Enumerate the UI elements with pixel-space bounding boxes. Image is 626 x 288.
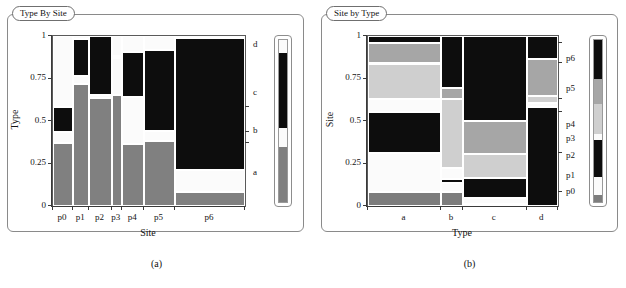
plot-title-a[interactable]: Type By Site [12, 6, 75, 21]
mosaic-tile-a-p6[interactable] [368, 36, 441, 43]
mosaic-column-d[interactable] [527, 36, 558, 206]
mosaic-column-p3[interactable] [112, 36, 123, 206]
right-axis-label: p3 [566, 133, 575, 143]
mosaic-tile-p1-d[interactable] [73, 36, 89, 39]
mosaic-tile-c-p1[interactable] [463, 198, 527, 204]
legend-swatch-p2[interactable] [594, 140, 602, 177]
right-axis-label: p4 [566, 119, 575, 129]
mosaic-tile-a-p4[interactable] [368, 64, 441, 99]
mosaic-tile-p0-b[interactable] [53, 132, 73, 143]
right-axis-tick [558, 98, 562, 99]
legend-swatch-p5[interactable] [594, 79, 602, 104]
mosaic-tile-p3-c[interactable] [112, 56, 123, 59]
mosaic-tile-c-p4[interactable] [463, 154, 527, 178]
x-axis-title-b: Type [327, 227, 597, 238]
legend-swatch-c[interactable] [279, 53, 287, 128]
mosaic-tile-d-p5[interactable] [527, 59, 558, 96]
type-colorbar[interactable] [274, 35, 292, 207]
mosaic-tile-p0-c[interactable] [53, 107, 73, 132]
mosaic-tile-p2-c[interactable] [89, 36, 111, 95]
mosaic-tile-a-p5[interactable] [368, 43, 441, 64]
y-axis-line-a [51, 35, 52, 207]
x-tick-mark [367, 206, 368, 210]
mosaic-tile-b-p6[interactable] [441, 36, 463, 88]
mosaic-tile-p6-d[interactable] [175, 36, 245, 38]
mosaic-column-p6[interactable] [175, 36, 245, 206]
mosaic-tile-p2-b[interactable] [89, 95, 111, 98]
legend-swatch-p4[interactable] [594, 104, 602, 134]
x-tick-label: p5 [139, 212, 179, 222]
mosaic-tile-p6-a[interactable] [175, 192, 245, 206]
mosaic-tile-p5-d[interactable] [144, 36, 175, 50]
mosaic-tile-c-p5[interactable] [463, 121, 527, 154]
mosaic-tile-p1-b[interactable] [73, 76, 89, 84]
mosaic-tile-p3-b[interactable] [112, 58, 123, 95]
mosaic-tile-p4-b[interactable] [122, 97, 144, 144]
mosaic-tile-p0-a[interactable] [53, 143, 73, 206]
mosaic-tile-p4-c[interactable] [122, 52, 144, 97]
y-tick-label: 0 [22, 201, 46, 210]
mosaic-tile-p6-c[interactable] [175, 38, 245, 171]
mosaic-tile-d-p6[interactable] [527, 36, 558, 59]
mosaic-tile-p1-a[interactable] [73, 84, 89, 206]
mosaic-plot-b[interactable] [367, 35, 559, 207]
mosaic-tile-p1-c[interactable] [73, 39, 89, 76]
panel-caption-b: (b) [313, 258, 626, 269]
mosaic-column-b[interactable] [441, 36, 463, 206]
mosaic-tile-b-p5[interactable] [441, 88, 463, 99]
mosaic-tile-a-p1[interactable] [368, 153, 441, 192]
mosaic-tile-p4-a[interactable] [122, 144, 144, 206]
right-axis-tick [245, 106, 249, 107]
mosaic-tile-b-p3[interactable] [441, 168, 463, 178]
mosaic-tile-d-p3[interactable] [527, 103, 558, 107]
x-tick-label: c [474, 212, 514, 222]
y-tick-label: 1 [22, 31, 46, 40]
legend-swatch-d[interactable] [279, 40, 287, 53]
legend-swatch-p6[interactable] [594, 40, 602, 79]
legend-swatch-p0[interactable] [594, 195, 602, 202]
mosaic-tile-p2-a[interactable] [89, 98, 111, 206]
site-colorbar[interactable] [589, 35, 607, 207]
mosaic-tile-a-p2[interactable] [368, 112, 441, 152]
mosaic-tile-b-p0[interactable] [441, 192, 463, 206]
mosaic-column-p1[interactable] [73, 36, 89, 206]
mosaic-tile-a-p3[interactable] [368, 99, 441, 113]
mosaic-tile-c-p6[interactable] [463, 36, 527, 121]
x-tick-mark [52, 206, 53, 210]
mosaic-column-p0[interactable] [53, 36, 73, 206]
legend-swatch-a[interactable] [279, 147, 287, 202]
mosaic-column-p2[interactable] [89, 36, 111, 206]
plot-title-b[interactable]: Site by Type [326, 6, 387, 21]
right-axis-label: p1 [566, 170, 575, 180]
x-tick-mark [244, 206, 245, 210]
mosaic-tile-p3-d[interactable] [112, 36, 123, 56]
mosaic-tile-b-p2[interactable] [441, 179, 463, 183]
right-axis-label: p5 [566, 83, 575, 93]
mosaic-column-a[interactable] [368, 36, 441, 206]
mosaic-tile-p5-c[interactable] [144, 50, 175, 132]
y-tick-mark [363, 78, 367, 79]
legend-swatch-b[interactable] [279, 128, 287, 146]
mosaic-tile-d-p2[interactable] [527, 107, 558, 206]
mosaic-tile-p6-b[interactable] [175, 170, 245, 192]
mosaic-column-p5[interactable] [144, 36, 175, 206]
mosaic-tile-b-p4[interactable] [441, 99, 463, 169]
legend-swatch-p3[interactable] [594, 134, 602, 141]
mosaic-tile-p3-a[interactable] [112, 95, 123, 206]
mosaic-tile-c-p2[interactable] [463, 178, 527, 199]
mosaic-tile-a-p0[interactable] [368, 192, 441, 206]
mosaic-tile-b-p1[interactable] [441, 183, 463, 192]
mosaic-column-c[interactable] [463, 36, 527, 206]
mosaic-column-p4[interactable] [122, 36, 144, 206]
mosaic-tile-d-p4[interactable] [527, 96, 558, 103]
legend-swatch-p1[interactable] [594, 177, 602, 195]
mosaic-tile-p4-d[interactable] [122, 36, 144, 52]
y-tick-mark [363, 35, 367, 36]
type-colorbar-strip [278, 39, 288, 203]
mosaic-tile-p5-a[interactable] [144, 141, 175, 206]
mosaic-tile-p5-b[interactable] [144, 131, 175, 140]
mosaic-tile-p0-d[interactable] [53, 36, 73, 107]
x-axis-title-a: Site [12, 227, 284, 238]
mosaic-plot-a[interactable] [52, 35, 246, 207]
x-tick-mark [111, 206, 112, 210]
